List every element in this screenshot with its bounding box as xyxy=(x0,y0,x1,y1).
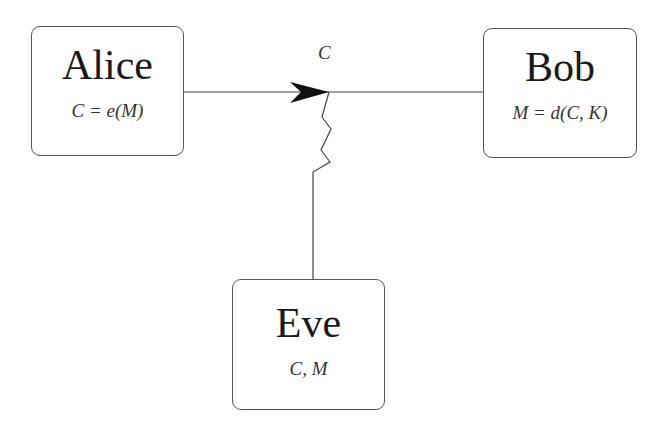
node-alice-name: Alice xyxy=(32,44,183,86)
node-bob-formula: M = d(C, K) xyxy=(484,102,636,124)
channel-label: C xyxy=(318,42,331,64)
node-eve-name: Eve xyxy=(233,302,384,344)
node-alice: Alice C = e(M) xyxy=(31,26,184,156)
node-eve-formula: C, M xyxy=(233,358,384,380)
node-alice-formula: C = e(M) xyxy=(32,100,183,122)
eavesdrop-zigzag-line xyxy=(313,92,331,279)
node-eve: Eve C, M xyxy=(232,279,385,410)
node-bob-name: Bob xyxy=(484,46,636,88)
node-bob: Bob M = d(C, K) xyxy=(483,28,637,158)
